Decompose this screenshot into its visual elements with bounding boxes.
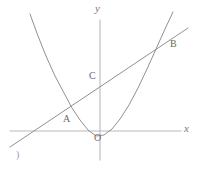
point-label-c: C [89,71,96,81]
origin-label: O [94,133,101,143]
point-label-a: A [63,114,70,124]
corner-mark: ) [16,150,19,160]
point-label-b: B [170,39,177,49]
figure-drawing-canvas [0,0,199,169]
x-axis-label: x [184,123,189,134]
y-axis-label: y [95,3,100,14]
math-figure: y x O A B C ) [0,0,199,169]
